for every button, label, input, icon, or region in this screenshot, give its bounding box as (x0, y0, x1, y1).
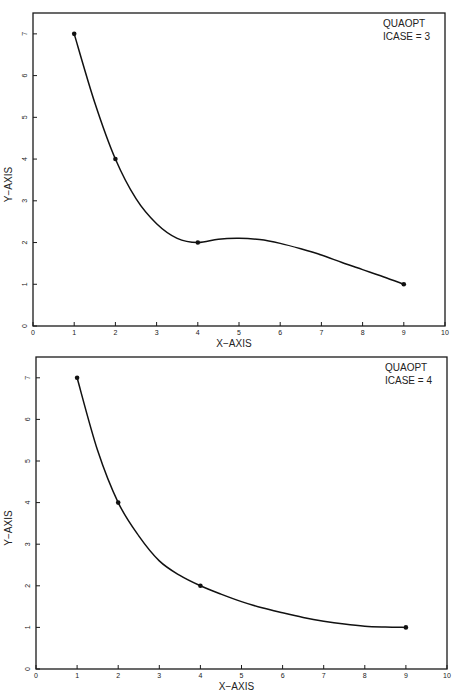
x-tick-label: 9 (402, 329, 406, 336)
annotation-text: QUAOPT (383, 18, 425, 29)
x-tick-label: 7 (322, 672, 326, 679)
data-curve (74, 34, 404, 284)
y-tick-label: 6 (21, 74, 28, 78)
x-tick-label: 7 (319, 329, 323, 336)
y-tick-label: 7 (21, 32, 28, 36)
x-tick-label: 2 (113, 329, 117, 336)
x-tick-label: 2 (116, 672, 120, 679)
x-tick-label: 1 (75, 672, 79, 679)
y-tick-label: 1 (21, 282, 28, 286)
x-tick-label: 4 (198, 672, 202, 679)
data-point (75, 376, 80, 381)
x-axis-label: X−AXIS (216, 338, 252, 349)
x-tick-label: 1 (72, 329, 76, 336)
y-axis-label: Y−AXIS (3, 167, 14, 203)
x-tick-label: 0 (34, 672, 38, 679)
x-tick-label: 8 (361, 329, 365, 336)
x-tick-label: 3 (157, 672, 161, 679)
y-tick-label: 5 (21, 115, 28, 119)
data-point (116, 500, 121, 505)
x-tick-label: 10 (443, 672, 451, 679)
chart-canvas: 01234567891001234567X−AXISY−AXISQUAOPTIC… (0, 0, 457, 693)
data-point (113, 157, 118, 162)
x-tick-label: 0 (31, 329, 35, 336)
data-curve (77, 378, 406, 628)
y-tick-label: 3 (24, 542, 31, 546)
y-tick-label: 1 (24, 625, 31, 629)
y-tick-label: 2 (24, 584, 31, 588)
y-tick-label: 5 (24, 459, 31, 463)
chart-icase-4: 01234567891001234567X−AXISY−AXISQUAOPTIC… (3, 357, 451, 692)
y-tick-label: 3 (21, 199, 28, 203)
x-tick-label: 10 (441, 329, 449, 336)
chart-icase-3: 01234567891001234567X−AXISY−AXISQUAOPTIC… (3, 13, 449, 349)
y-tick-label: 0 (21, 324, 28, 328)
y-tick-label: 7 (24, 376, 31, 380)
data-point (404, 625, 409, 630)
x-tick-label: 5 (240, 672, 244, 679)
x-tick-label: 6 (278, 329, 282, 336)
annotation-text: ICASE = 4 (385, 375, 432, 386)
y-tick-label: 0 (24, 667, 31, 671)
data-point (198, 584, 203, 589)
x-tick-label: 6 (281, 672, 285, 679)
x-tick-label: 4 (196, 329, 200, 336)
y-tick-label: 4 (21, 157, 28, 161)
y-tick-label: 2 (21, 240, 28, 244)
x-tick-label: 3 (155, 329, 159, 336)
y-tick-label: 6 (24, 417, 31, 421)
data-point (402, 282, 407, 287)
x-tick-label: 9 (404, 672, 408, 679)
annotation-text: QUAOPT (385, 362, 427, 373)
plot-frame (33, 13, 445, 326)
y-tick-label: 4 (24, 501, 31, 505)
x-axis-label: X−AXIS (219, 681, 255, 692)
plot-frame (36, 357, 447, 669)
x-tick-label: 5 (237, 329, 241, 336)
y-axis-label: Y−AXIS (3, 510, 14, 546)
annotation-text: ICASE = 3 (383, 31, 430, 42)
data-point (196, 240, 201, 245)
x-tick-label: 8 (363, 672, 367, 679)
data-point (72, 32, 77, 37)
